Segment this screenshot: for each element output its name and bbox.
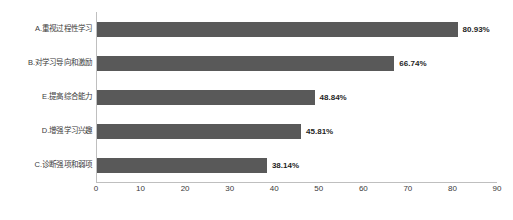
category-label: A.重视过程性学习: [0, 24, 92, 34]
bar-value-label: 80.93%: [463, 25, 490, 34]
x-tick-label: 0: [94, 184, 98, 193]
x-tick-label: 40: [270, 184, 279, 193]
bar-value-label: 38.14%: [272, 161, 299, 170]
bar-row[interactable]: A.重视过程性学习80.93%: [0, 12, 513, 46]
bar-with-value: 48.84%: [97, 80, 347, 114]
bar-with-value: 80.93%: [97, 12, 490, 46]
x-axis-line: [96, 182, 497, 183]
bar-row[interactable]: E.提高综合能力48.84%: [0, 80, 513, 114]
x-tick-label: 90: [493, 184, 502, 193]
bar-value-label: 45.81%: [306, 127, 333, 136]
x-axis-tick-labels: 0102030405060708090: [0, 184, 513, 200]
bar-value-label: 66.74%: [399, 59, 426, 68]
bar-row[interactable]: C.诊断强项和弱项38.14%: [0, 148, 513, 182]
bar-row[interactable]: D.增强学习兴趣45.81%: [0, 114, 513, 148]
x-tick-label: 60: [359, 184, 368, 193]
bar-value-label: 48.84%: [320, 93, 347, 102]
category-label: D.增强学习兴趣: [0, 126, 92, 136]
bar-with-value: 66.74%: [97, 46, 427, 80]
bar[interactable]: [97, 158, 267, 173]
bar-with-value: 38.14%: [97, 148, 299, 182]
category-label: B.对学习导向和激励: [0, 58, 92, 68]
bar-row[interactable]: B.对学习导向和激励66.74%: [0, 46, 513, 80]
x-tick-label: 30: [225, 184, 234, 193]
bar-with-value: 45.81%: [97, 114, 333, 148]
x-tick-label: 10: [136, 184, 145, 193]
x-tick-label: 50: [314, 184, 323, 193]
x-tick-label: 80: [448, 184, 457, 193]
bar[interactable]: [97, 124, 301, 139]
x-tick-label: 70: [403, 184, 412, 193]
category-label: C.诊断强项和弱项: [0, 160, 92, 170]
bar[interactable]: [97, 90, 315, 105]
bar[interactable]: [97, 22, 458, 37]
figure-caption: [0, 203, 513, 220]
bar-rows: A.重视过程性学习80.93%B.对学习导向和激励66.74%E.提高综合能力4…: [0, 12, 513, 182]
x-tick-label: 20: [181, 184, 190, 193]
bar-chart: A.重视过程性学习80.93%B.对学习导向和激励66.74%E.提高综合能力4…: [0, 0, 513, 220]
category-label: E.提高综合能力: [0, 92, 92, 102]
bar[interactable]: [97, 56, 394, 71]
